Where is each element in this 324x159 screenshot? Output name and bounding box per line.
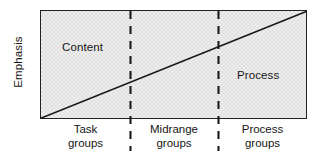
category-process-groups-line1: Process <box>242 123 284 135</box>
category-task-groups-line1: Task <box>74 123 98 135</box>
category-task-groups-line2: groups <box>41 136 130 150</box>
region-label-process: Process <box>237 69 279 81</box>
category-label-process-groups: Process groups <box>218 122 307 150</box>
plot-area <box>40 10 307 119</box>
category-process-groups-line2: groups <box>218 136 307 150</box>
region-label-content: Content <box>62 41 103 53</box>
emphasis-vs-group-type-figure: Emphasis Content Process Task groups Mid… <box>0 0 324 159</box>
category-midrange-groups-line2: groups <box>130 136 218 150</box>
category-midrange-groups-line1: Midrange <box>150 123 198 135</box>
category-label-task-groups: Task groups <box>41 122 130 150</box>
y-axis-label: Emphasis <box>10 27 26 97</box>
category-label-midrange-groups: Midrange groups <box>130 122 218 150</box>
